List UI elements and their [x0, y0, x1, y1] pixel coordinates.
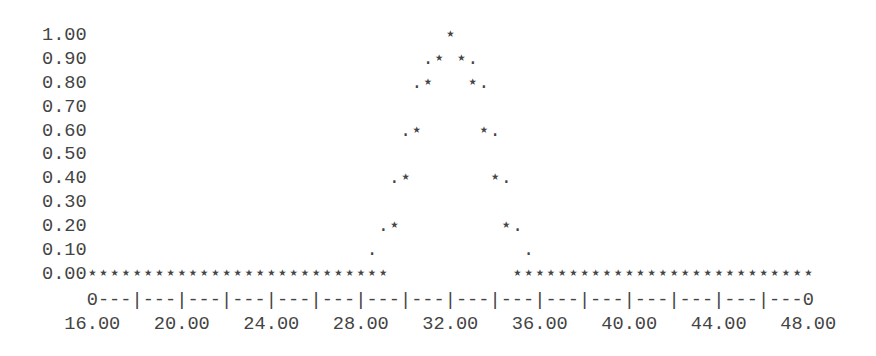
y-tick-label: 1.00 [42, 24, 87, 48]
blank-cell [322, 72, 333, 96]
blank-cell [355, 24, 366, 48]
blank-cell [143, 24, 154, 48]
data-point-marker: ★ [366, 261, 377, 285]
x-axis-line: 0---|---|---|---|---|---|---|---|---|---… [42, 289, 836, 313]
blank-cell [176, 215, 187, 239]
blank-cell [456, 120, 467, 144]
y-tick-label: 0.90 [42, 48, 87, 72]
blank-cell [132, 120, 143, 144]
blank-cell [266, 215, 277, 239]
blank-cell [143, 239, 154, 263]
blank-cell [154, 239, 165, 263]
blank-cell [87, 120, 98, 144]
interpolation-dot: . [467, 48, 478, 72]
blank-cell [199, 167, 210, 191]
blank-cell [143, 167, 154, 191]
blank-cell [277, 120, 288, 144]
blank-cell [143, 48, 154, 72]
data-point-marker: ★ [434, 46, 445, 70]
blank-cell [400, 48, 411, 72]
blank-cell [210, 120, 221, 144]
blank-cell [87, 215, 98, 239]
blank-cell [232, 167, 243, 191]
blank-cell [277, 48, 288, 72]
y-tick-label: 0.70 [42, 96, 87, 120]
blank-cell [210, 48, 221, 72]
blank-cell [389, 239, 400, 263]
data-point-marker: ★ [579, 261, 590, 285]
blank-cell [311, 120, 322, 144]
data-point-marker: ★ [613, 261, 624, 285]
blank-cell [400, 72, 411, 96]
plot-row: 1.00 ★ [42, 24, 836, 48]
blank-cell [434, 215, 445, 239]
blank-cell [322, 120, 333, 144]
blank-cell [109, 239, 120, 263]
blank-cell [322, 215, 333, 239]
blank-cell [266, 24, 277, 48]
blank-cell [232, 215, 243, 239]
data-point-marker: ★ [501, 213, 512, 237]
blank-cell [176, 24, 187, 48]
blank-cell [389, 72, 400, 96]
blank-cell [311, 239, 322, 263]
blank-cell [210, 215, 221, 239]
blank-cell [422, 167, 433, 191]
blank-cell [389, 263, 400, 287]
plot-row: 0.30 [42, 191, 836, 215]
blank-cell [445, 72, 456, 96]
blank-cell [456, 215, 467, 239]
data-point-marker: ★ [243, 261, 254, 285]
blank-cell [400, 24, 411, 48]
blank-cell [109, 48, 120, 72]
blank-cell [378, 72, 389, 96]
data-point-marker: ★ [87, 261, 98, 285]
blank-cell [311, 72, 322, 96]
data-point-marker: ★ [378, 261, 389, 285]
blank-cell [311, 48, 322, 72]
blank-cell [355, 239, 366, 263]
data-point-marker: ★ [210, 261, 221, 285]
blank-cell [266, 167, 277, 191]
blank-cell [165, 24, 176, 48]
blank-cell [344, 215, 355, 239]
blank-cell [210, 24, 221, 48]
blank-cell [266, 72, 277, 96]
blank-cell [333, 24, 344, 48]
blank-cell [490, 263, 501, 287]
blank-cell [221, 215, 232, 239]
blank-cell [299, 167, 310, 191]
plot-row: 0.50 [42, 143, 836, 167]
blank-cell [467, 167, 478, 191]
blank-cell [221, 72, 232, 96]
data-point-marker: ★ [221, 261, 232, 285]
blank-cell [344, 72, 355, 96]
blank-cell [143, 120, 154, 144]
data-point-marker: ★ [456, 46, 467, 70]
blank-cell [232, 72, 243, 96]
blank-cell [299, 48, 310, 72]
blank-cell [98, 24, 109, 48]
data-point-marker: ★ [568, 261, 579, 285]
blank-cell [221, 167, 232, 191]
blank-cell [456, 239, 467, 263]
plot-row: 0.80 .★ ★. [42, 72, 836, 96]
blank-cell [378, 24, 389, 48]
blank-cell [434, 24, 445, 48]
blank-cell [165, 120, 176, 144]
blank-cell [132, 72, 143, 96]
data-point-marker: ★ [389, 213, 400, 237]
blank-cell [422, 263, 433, 287]
plot-row: 0.90 .★ ★. [42, 48, 836, 72]
blank-cell [366, 215, 377, 239]
interpolation-dot: . [389, 167, 400, 191]
blank-cell [154, 72, 165, 96]
blank-cell [199, 120, 210, 144]
blank-cell [187, 120, 198, 144]
y-tick-label: 0.60 [42, 120, 87, 144]
blank-cell [366, 120, 377, 144]
blank-cell [467, 263, 478, 287]
blank-cell [288, 48, 299, 72]
blank-cell [400, 263, 411, 287]
blank-cell [333, 72, 344, 96]
